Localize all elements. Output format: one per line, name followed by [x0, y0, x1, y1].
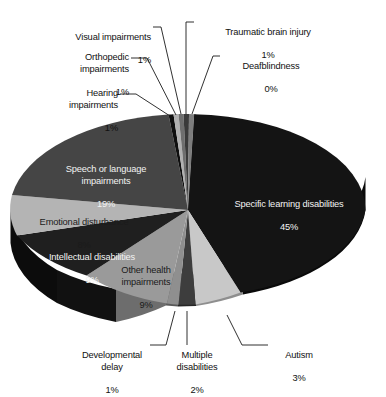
- callout-category: Multiple disabilities: [160, 350, 234, 373]
- callout-category: Orthopedic impairments: [34, 52, 129, 75]
- callout-multiple-disabilities: Multiple disabilities 2%: [160, 339, 234, 397]
- callout-percent: 1%: [73, 385, 151, 396]
- slice-label-category: Specific learning disabilities: [206, 199, 372, 210]
- slice-label-percent: 45%: [206, 222, 372, 233]
- callout-deafblindness: Deafblindness 0%: [224, 50, 318, 107]
- callout-percent: 3%: [272, 373, 326, 384]
- callout-percent: 2%: [160, 385, 234, 396]
- leader-traumatic-brain-injury: [186, 22, 194, 114]
- callout-category: Developmental delay: [73, 350, 151, 373]
- callout-category: Autism: [272, 350, 326, 361]
- slice-label-category: Speech or language impairments: [47, 164, 165, 187]
- callout-hearing-impairments: Hearing impairments 1%: [32, 77, 118, 145]
- callout-percent: 1%: [32, 123, 118, 134]
- callout-autism: Autism 3%: [272, 339, 326, 396]
- callout-category: Hearing impairments: [32, 88, 118, 111]
- callout-category: Traumatic brain injury: [198, 27, 338, 38]
- slice-label-category: Other health impairments: [104, 265, 188, 288]
- slice-label-specific-learning-disabilities: Specific learning disabilities 45%: [206, 188, 372, 245]
- slice-label-other-health-impairments: Other health impairments 9%: [104, 254, 188, 322]
- slice-label-category: Emotional disturbance: [16, 217, 152, 228]
- leader-visual-impairments: [153, 27, 181, 114]
- callout-developmental-delay: Developmental delay 1%: [73, 339, 151, 397]
- callout-category: Deafblindness: [224, 61, 318, 72]
- callout-percent: 0%: [224, 84, 318, 95]
- slice-label-percent: 9%: [104, 300, 188, 311]
